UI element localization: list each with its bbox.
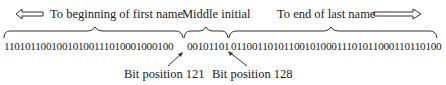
first-name-brace	[4, 27, 183, 38]
bit-position-128-label: Bit position 128	[212, 67, 293, 81]
bit-121-pointer	[168, 52, 183, 66]
last-name-label: To end of last name	[277, 7, 375, 21]
last-name-brace	[229, 27, 437, 38]
bit-128-pointer	[228, 51, 247, 66]
middle-initial-brace	[184, 27, 228, 38]
first-name-label: To beginning of first name	[50, 7, 183, 21]
left-arrow-icon	[16, 9, 43, 19]
middle-initial-label: Middle initial	[182, 7, 250, 21]
first-name-bits: 11010110010010100111010001000100	[4, 40, 173, 53]
last-name-bits: 0110011010110010100011101011000110110100	[231, 40, 441, 53]
bit-position-121-label: Bit position 121	[124, 67, 205, 81]
right-arrow-icon	[374, 9, 421, 19]
middle-initial-bits: 00101101	[187, 40, 229, 53]
